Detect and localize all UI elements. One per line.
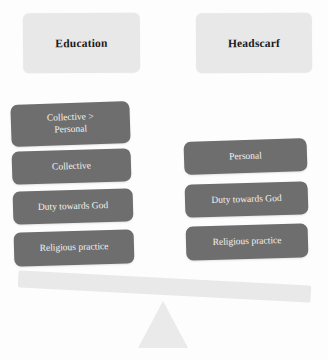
header-card-headscarf-label: Headscarf: [228, 37, 280, 49]
left-concept-box-3[interactable]: Duty towards God: [13, 188, 134, 224]
diagram-canvas: Education Headscarf Collective > Persona…: [0, 0, 328, 360]
left-concept-box-4[interactable]: Religious practice: [14, 229, 135, 266]
left-concept-box-1-text: Collective > Personal: [47, 111, 95, 136]
right-concept-box-2[interactable]: Duty towards God: [185, 181, 309, 218]
left-concept-box-1[interactable]: Collective > Personal: [10, 101, 130, 147]
header-card-headscarf[interactable]: Headscarf: [196, 13, 312, 74]
header-card-education[interactable]: Education: [23, 13, 140, 74]
right-concept-box-3[interactable]: Religious practice: [186, 223, 309, 260]
right-concept-box-1-label: Personal: [229, 150, 262, 163]
left-concept-box-2[interactable]: Collective: [12, 148, 132, 185]
balance-beam: [18, 270, 311, 302]
left-concept-box-4-label: Religious practice: [39, 241, 108, 255]
header-card-education-label: Education: [55, 37, 107, 49]
left-concept-box-3-label: Duty towards God: [38, 200, 109, 214]
left-concept-box-2-label: Collective: [52, 160, 91, 173]
right-concept-box-1[interactable]: Personal: [184, 138, 308, 175]
right-concept-box-3-label: Religious practice: [212, 235, 281, 249]
balance-fulcrum-triangle: [138, 301, 188, 348]
left-concept-box-1-line2: Personal: [47, 123, 94, 136]
right-concept-box-2-label: Duty towards God: [211, 193, 282, 207]
